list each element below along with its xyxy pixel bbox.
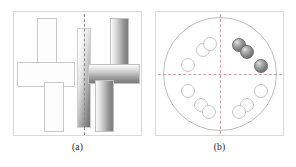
panel-b-caption: (b) — [155, 142, 284, 152]
left-cross-upper-arm — [37, 18, 57, 68]
vertical-axis-dashed — [220, 14, 221, 134]
sphere-br-1 — [254, 84, 268, 98]
sphere-tr-3 — [254, 59, 268, 73]
sphere-tr-2 — [240, 45, 254, 59]
sphere-bl-3 — [202, 105, 216, 119]
panel-b — [155, 11, 284, 136]
figure-root: (a) (b) — [0, 0, 296, 167]
sphere-bl-1 — [181, 84, 195, 98]
sphere-tl-1 — [181, 58, 195, 72]
left-cross-lower-arm — [44, 82, 64, 132]
sphere-br-3 — [232, 105, 246, 119]
right-cross-lower-arm — [95, 80, 114, 132]
sphere-tl-3 — [203, 37, 217, 51]
panel-a-caption: (a) — [13, 142, 142, 152]
right-cross-upper-arm — [110, 18, 129, 68]
panel-a — [13, 11, 142, 136]
split-plane-dashed-line — [84, 14, 85, 135]
